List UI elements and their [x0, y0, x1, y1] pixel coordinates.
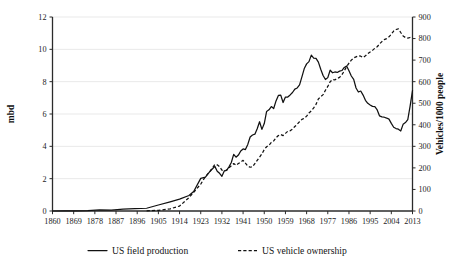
x-tick-label: 1860 [44, 217, 60, 226]
x-axis-ticks: 1860186918781887189619051914192319321941… [44, 211, 420, 226]
y2-tick-label: 200 [419, 164, 431, 173]
gridlines-group [53, 17, 413, 179]
y2-tick-label: 400 [419, 121, 431, 130]
chart-figure: 024681012 0100200300400500600700800900 1… [0, 0, 465, 269]
y2-tick-label: 500 [419, 99, 431, 108]
x-tick-label: 1977 [320, 217, 336, 226]
y2-axis-title: Vehicles/1000 people [435, 73, 445, 155]
y-tick-label: 6 [42, 110, 46, 119]
x-tick-label: 1905 [150, 217, 166, 226]
legend-label-1: US field production [112, 245, 188, 256]
x-tick-label: 2004 [383, 217, 399, 226]
x-tick-label: 1995 [362, 217, 378, 226]
x-tick-label: 1941 [235, 217, 251, 226]
x-tick-label: 1887 [108, 217, 124, 226]
legend-label-2: US vehicle ownership [262, 245, 347, 256]
y-tick-label: 10 [38, 45, 46, 54]
x-tick-label: 1968 [298, 217, 314, 226]
x-tick-label: 1986 [341, 217, 357, 226]
y-tick-label: 12 [38, 13, 46, 22]
x-tick-label: 2013 [404, 217, 420, 226]
y-axis-title: mbd [6, 104, 16, 123]
x-tick-label: 1959 [277, 217, 293, 226]
chart-svg: 024681012 0100200300400500600700800900 1… [0, 0, 465, 269]
y-tick-label: 0 [42, 207, 46, 216]
x-tick-label: 1950 [256, 217, 272, 226]
y-tick-label: 4 [42, 142, 46, 151]
y2-tick-label: 300 [419, 142, 431, 151]
y2-tick-label: 600 [419, 78, 431, 87]
x-tick-label: 1869 [65, 217, 81, 226]
x-tick-label: 1878 [87, 217, 103, 226]
data-series-group [53, 29, 413, 211]
y2-tick-label: 0 [419, 207, 423, 216]
y-tick-label: 2 [42, 175, 46, 184]
x-tick-label: 1923 [193, 217, 209, 226]
x-tick-label: 1932 [214, 217, 230, 226]
y2-tick-label: 100 [419, 185, 431, 194]
x-tick-label: 1896 [129, 217, 145, 226]
y-tick-label: 8 [42, 78, 46, 87]
y2-tick-label: 800 [419, 34, 431, 43]
x-tick-label: 1914 [171, 217, 187, 226]
y-axis-ticks: 024681012 [38, 13, 52, 216]
y2-tick-label: 900 [419, 13, 431, 22]
series-line-2 [147, 29, 413, 211]
series-line-1 [53, 55, 413, 211]
y2-axis-ticks: 0100200300400500600700800900 [413, 13, 431, 216]
y2-tick-label: 700 [419, 56, 431, 65]
chart-legend: US field productionUS vehicle ownership [88, 245, 347, 256]
